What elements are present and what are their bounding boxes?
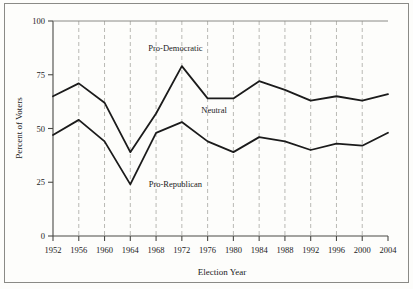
x-tick-label-1956: 1956 (70, 245, 87, 255)
x-tick-label-1992: 1992 (302, 245, 319, 255)
axis-lines (53, 21, 388, 236)
chart-figure: 0255075100 19521956196019641968197219761… (0, 0, 413, 289)
x-tick-label-1988: 1988 (276, 245, 293, 255)
x-axis-ticks (53, 236, 388, 241)
y-tick-label-0: 0 (41, 231, 45, 241)
x-tick-label-2004: 2004 (380, 245, 398, 255)
x-tick-label-1996: 1996 (328, 245, 345, 255)
y-tick-label-100: 100 (32, 16, 45, 26)
annotation-neutral: Neutral (201, 105, 227, 115)
x-tick-label-1976: 1976 (199, 245, 216, 255)
x-tick-label-2000: 2000 (354, 245, 371, 255)
series-line-lower-boundary (53, 120, 388, 184)
x-tick-label-1968: 1968 (148, 245, 165, 255)
annotation-pro-republican: Pro-Republican (149, 179, 203, 189)
x-tick-label-1984: 1984 (251, 245, 269, 255)
x-axis-tick-labels: 1952195619601964196819721976198019841988… (45, 245, 398, 255)
chart-annotations: Pro-DemocraticNeutralPro-Republican (148, 43, 227, 188)
x-tick-label-1960: 1960 (96, 245, 113, 255)
x-tick-label-1952: 1952 (45, 245, 62, 255)
y-axis-title: Percent of Voters (14, 97, 24, 159)
x-tick-label-1972: 1972 (173, 245, 190, 255)
x-tick-label-1964: 1964 (122, 245, 140, 255)
grid-lines (79, 21, 362, 236)
x-tick-label-1980: 1980 (225, 245, 242, 255)
annotation-pro-democratic: Pro-Democratic (148, 43, 203, 53)
y-axis-tick-labels: 0255075100 (32, 16, 45, 241)
x-axis-title: Election Year (198, 267, 247, 277)
series-lines (53, 66, 388, 184)
y-tick-label-75: 75 (37, 70, 46, 80)
y-axis-ticks (48, 21, 53, 236)
line-chart: 0255075100 19521956196019641968197219761… (0, 0, 413, 289)
y-tick-label-25: 25 (37, 177, 46, 187)
y-tick-label-50: 50 (37, 124, 46, 134)
